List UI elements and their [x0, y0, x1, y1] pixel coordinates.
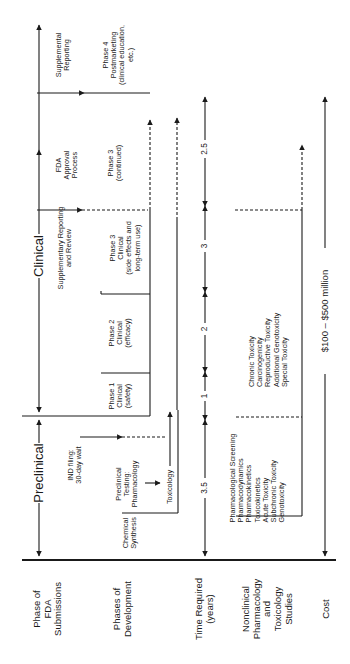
drug-development-timeline-diagram [0, 0, 350, 664]
